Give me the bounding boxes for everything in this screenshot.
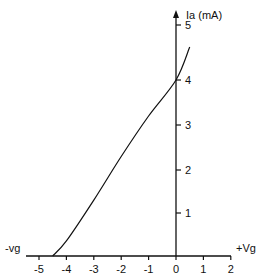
x-tick-label: 1 <box>200 263 206 275</box>
x-tick-label: -5 <box>34 263 44 275</box>
x-tick-label: 2 <box>228 263 234 275</box>
y-tick-label: 1 <box>185 207 191 219</box>
transfer-characteristic-chart: -5-4-3-2-1012 12345 Ia (mA) -vg +Vg <box>0 0 264 279</box>
x-tick-label: -3 <box>89 263 99 275</box>
x-axis-label-negative: -vg <box>5 242 20 254</box>
x-tick-label: -2 <box>116 263 126 275</box>
y-tick-label: 4 <box>185 74 191 86</box>
y-axis-label: Ia (mA) <box>186 9 222 21</box>
x-ticks: -5-4-3-2-1012 <box>34 256 234 275</box>
y-tick-label: 3 <box>185 119 191 131</box>
y-axis-arrow-icon <box>173 10 179 18</box>
x-tick-label: -1 <box>144 263 154 275</box>
axes <box>26 10 231 256</box>
x-axis-label-positive: +Vg <box>236 242 256 254</box>
y-tick-label: 2 <box>185 164 191 176</box>
x-tick-label: 0 <box>173 263 179 275</box>
data-curve <box>53 47 190 256</box>
x-tick-label: -4 <box>62 263 72 275</box>
